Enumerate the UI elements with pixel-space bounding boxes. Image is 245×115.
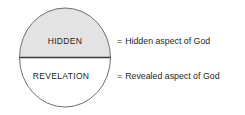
diagram-container: HIDDEN REVELATION = Hidden aspect of God… xyxy=(0,0,245,115)
legend-item-hidden: = Hidden aspect of God xyxy=(117,36,210,46)
legend-label-revelation: Revealed aspect of God xyxy=(125,71,219,81)
legend-label-hidden: Hidden aspect of God xyxy=(125,36,210,46)
circle-bottom-half xyxy=(20,58,111,108)
legend-equals-sign-revelation: = xyxy=(117,71,122,81)
circle-top-half-label: HIDDEN xyxy=(20,36,110,46)
legend-item-revelation: = Revealed aspect of God xyxy=(117,71,220,81)
legend-equals-sign-hidden: = xyxy=(117,36,122,46)
split-circle-graphic xyxy=(0,0,245,115)
circle-bottom-half-label: REVELATION xyxy=(16,71,106,81)
circle-top-half xyxy=(20,8,111,58)
